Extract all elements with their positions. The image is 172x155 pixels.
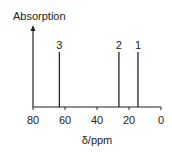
nmr-spectrum-chart: Absorption 806040200 321 δ/ppm [0,0,172,155]
peak-label: 3 [56,39,62,51]
x-tick-label: 0 [158,114,164,126]
x-axis-label: δ/ppm [82,134,113,146]
x-tick-label: 40 [91,114,103,126]
y-axis-label: Absorption [13,10,66,22]
x-tick-label: 60 [59,114,71,126]
x-axis-ticks: 806040200 [27,107,164,126]
peak-label: 2 [116,39,122,51]
y-axis-arrow-icon [31,25,36,31]
x-tick-label: 20 [123,114,135,126]
x-tick-label: 80 [27,114,39,126]
peak-label: 1 [135,39,141,51]
peaks: 321 [56,39,141,107]
